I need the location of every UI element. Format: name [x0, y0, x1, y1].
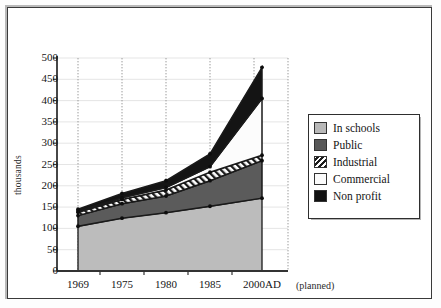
legend-label-non-profit: Non profit — [333, 190, 381, 202]
legend-label-industrial: Industrial — [333, 156, 377, 168]
legend-item-non-profit: Non profit — [314, 187, 413, 204]
legend-label-commercial: Commercial — [333, 173, 390, 185]
legend-item-public: Public — [314, 136, 413, 153]
legend-swatch-non-profit — [314, 190, 327, 202]
x-tick-2000AD: 2000AD — [232, 279, 292, 290]
legend-item-in-schools: In schools — [314, 119, 413, 136]
legend-item-industrial: Industrial — [314, 153, 413, 170]
legend-swatch-public — [314, 139, 327, 151]
legend-swatch-in-schools — [314, 122, 327, 134]
legend-label-in-schools: In schools — [333, 122, 380, 134]
legend-swatch-commercial — [314, 173, 327, 185]
figure: thousands 050100150200250300350400450500… — [0, 0, 441, 308]
legend-swatch-industrial — [314, 156, 327, 168]
legend-item-commercial: Commercial — [314, 170, 413, 187]
x-axis-annotation: (planned) — [296, 280, 334, 291]
chart-legend: In schools Public Industrial Commercial … — [308, 114, 420, 219]
legend-label-public: Public — [333, 139, 362, 151]
x-tick-1985: 1985 — [180, 279, 240, 290]
